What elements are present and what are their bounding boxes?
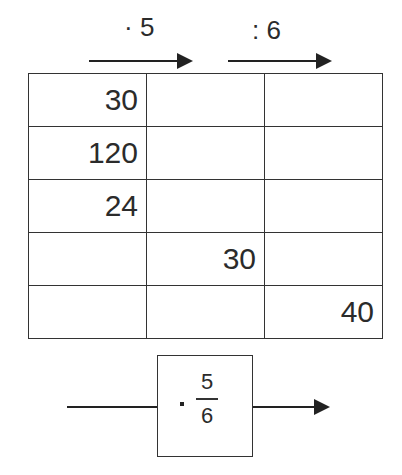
value-table: 30 120 24 30 40 <box>28 73 383 339</box>
table-cell <box>265 74 383 127</box>
operator-multiply-5: · 5 <box>124 14 154 40</box>
operator-divide-6: : 6 <box>252 17 281 43</box>
table-cell <box>265 127 383 180</box>
input-line <box>67 406 157 408</box>
table-cell <box>147 74 265 127</box>
fraction-bar <box>196 398 218 400</box>
fraction: 5 6 <box>195 370 219 428</box>
table-row: 120 <box>29 127 383 180</box>
fraction-numerator: 5 <box>195 370 219 394</box>
table-cell <box>147 180 265 233</box>
table-row: 30 <box>29 74 383 127</box>
arrow-right-icon <box>253 406 328 408</box>
table-cell <box>265 233 383 286</box>
table-cell <box>29 233 147 286</box>
table-row: 30 <box>29 233 383 286</box>
fraction-denominator: 6 <box>195 404 219 428</box>
table-cell <box>147 127 265 180</box>
table-cell: 120 <box>29 127 147 180</box>
arrow-right-icon <box>228 60 330 62</box>
table-cell <box>265 180 383 233</box>
table-cell <box>29 286 147 339</box>
multiply-dot-icon <box>180 402 184 406</box>
table-cell: 30 <box>147 233 265 286</box>
table-cell: 24 <box>29 180 147 233</box>
combined-operator-box: 5 6 <box>157 355 253 457</box>
table-cell: 30 <box>29 74 147 127</box>
table-cell: 40 <box>265 286 383 339</box>
table-cell <box>147 286 265 339</box>
table-row: 24 <box>29 180 383 233</box>
arrow-right-icon <box>89 60 191 62</box>
table-row: 40 <box>29 286 383 339</box>
